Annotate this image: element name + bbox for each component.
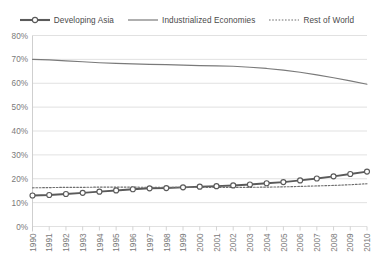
series-marker-developing-asia bbox=[164, 186, 169, 191]
x-axis-tick-label: 2000 bbox=[196, 233, 205, 252]
series-marker-developing-asia bbox=[331, 174, 336, 179]
y-axis-tick-label: 80% bbox=[12, 32, 28, 41]
series-marker-developing-asia bbox=[47, 192, 52, 197]
series-marker-developing-asia bbox=[298, 178, 303, 183]
x-axis-tick-label: 2004 bbox=[263, 233, 272, 252]
x-axis-tick-label: 1997 bbox=[146, 233, 155, 252]
series-marker-developing-asia bbox=[181, 185, 186, 190]
y-axis-tick-label: 30% bbox=[12, 151, 28, 160]
x-axis-tick-label: 2005 bbox=[280, 233, 289, 252]
y-axis-tick-label: 10% bbox=[12, 199, 28, 208]
series-marker-developing-asia bbox=[63, 192, 68, 197]
x-axis-tick-label: 1999 bbox=[179, 233, 188, 252]
series-marker-developing-asia bbox=[264, 181, 269, 186]
series-marker-developing-asia bbox=[30, 193, 35, 198]
series-marker-developing-asia bbox=[80, 190, 85, 195]
series-marker-developing-asia bbox=[348, 171, 353, 176]
x-axis-tick-label: 2001 bbox=[213, 233, 222, 252]
x-axis-tick-label: 2009 bbox=[346, 233, 355, 252]
y-axis-tick-label: 20% bbox=[12, 175, 28, 184]
series-line-industrialized-economies bbox=[33, 59, 368, 84]
series-marker-developing-asia bbox=[281, 180, 286, 185]
y-axis-tick-label: 40% bbox=[12, 127, 28, 136]
x-axis-tick-label: 2006 bbox=[296, 233, 305, 252]
x-axis-tick-label: 1995 bbox=[112, 233, 121, 252]
x-axis-tick-label: 1993 bbox=[79, 233, 88, 252]
x-axis-tick-label: 1990 bbox=[29, 233, 38, 252]
x-axis-tick-label: 1996 bbox=[129, 233, 138, 252]
y-axis-tick-label: 50% bbox=[12, 103, 28, 112]
x-axis-tick-label: 1991 bbox=[45, 233, 54, 252]
y-axis-tick-label: 60% bbox=[12, 79, 28, 88]
series-marker-developing-asia bbox=[214, 184, 219, 189]
series-marker-developing-asia bbox=[247, 182, 252, 187]
x-axis-tick-label: 2008 bbox=[330, 233, 339, 252]
series-marker-developing-asia bbox=[365, 169, 370, 174]
x-axis-tick-label: 1992 bbox=[62, 233, 71, 252]
series-marker-developing-asia bbox=[97, 189, 102, 194]
x-axis-tick-label: 2010 bbox=[363, 233, 372, 252]
x-axis-tick-label: 2003 bbox=[246, 233, 255, 252]
series-marker-developing-asia bbox=[197, 184, 202, 189]
x-axis-tick-label: 1998 bbox=[163, 233, 172, 252]
series-marker-developing-asia bbox=[114, 188, 119, 193]
series-marker-developing-asia bbox=[147, 186, 152, 191]
x-axis-tick-label: 2002 bbox=[229, 233, 238, 252]
y-axis-tick-label: 0% bbox=[16, 223, 28, 232]
series-marker-developing-asia bbox=[314, 176, 319, 181]
chart-container: Developing Asia Industrialized Economies… bbox=[0, 0, 374, 271]
x-axis-tick-label: 1994 bbox=[96, 233, 105, 252]
chart-plot-area: 80%70%60%50%40%30%20%10%0%19901991199219… bbox=[0, 0, 374, 271]
x-axis-tick-label: 2007 bbox=[313, 233, 322, 252]
y-axis-tick-label: 70% bbox=[12, 55, 28, 64]
series-marker-developing-asia bbox=[231, 183, 236, 188]
series-marker-developing-asia bbox=[130, 187, 135, 192]
